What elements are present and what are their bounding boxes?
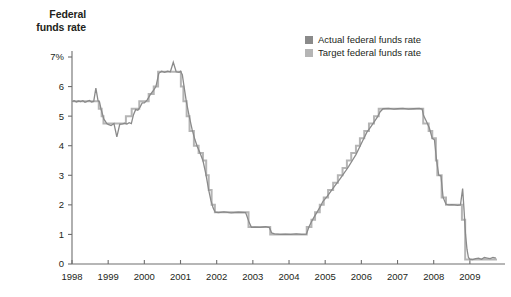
y-axis: 01234567% [50,51,72,269]
x-axis-tick-label: 2003 [242,271,263,282]
y-axis-tick-label: 1 [59,229,64,240]
x-axis-tick-label: 2008 [423,271,444,282]
y-axis-tick-label: 2 [59,199,64,210]
data-series-group [72,62,497,259]
series-line-actual [72,62,496,259]
y-axis-tick-label: 5 [59,111,64,122]
x-axis-tick-label: 1999 [98,271,119,282]
plot-area: 01234567% 199819992000200120022003200420… [0,0,511,297]
y-axis-tick-label: 0 [59,258,64,269]
y-axis-tick-label: 3 [59,170,64,181]
x-axis-tick-label: 2005 [315,271,336,282]
y-axis-tick-label: 4 [59,140,64,151]
x-axis-tick-label: 2001 [170,271,191,282]
x-axis-tick-label: 2004 [278,271,299,282]
x-axis: 1998199920002001200220032004200520062007… [61,260,505,282]
x-axis-tick-label: 2009 [459,271,480,282]
x-axis-tick-label: 2007 [387,271,408,282]
x-axis-tick-label: 2002 [206,271,227,282]
x-axis-tick-label: 1998 [61,271,82,282]
federal-funds-rate-chart: Federal funds rate Actual federal funds … [0,0,511,297]
x-axis-tick-label: 2000 [134,271,155,282]
x-axis-tick-label: 2006 [351,271,372,282]
y-axis-tick-label: 7% [50,51,64,62]
y-axis-tick-label: 6 [59,81,64,92]
series-line-target [72,72,497,260]
